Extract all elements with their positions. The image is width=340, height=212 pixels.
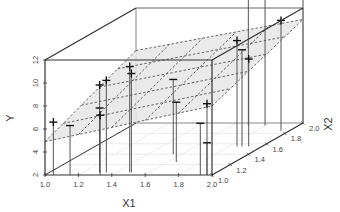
x1-tick-label: 1.0	[40, 180, 50, 189]
y-tick-label: 10	[31, 79, 40, 87]
x1-axis-label: X1	[122, 197, 135, 209]
x2-axis-label: X2	[322, 117, 334, 130]
y-tick-label: 12	[31, 56, 40, 64]
y-tick-label: 4	[31, 150, 40, 154]
floor-grid	[63, 123, 285, 175]
floor-grid-line	[145, 123, 236, 175]
x2-tick-label: 1.8	[291, 134, 301, 143]
x1-tick-label: 1.8	[173, 180, 183, 189]
x2-axis-line	[212, 123, 303, 175]
floor-grid-line	[112, 123, 203, 175]
x2-tick-label: 1.0	[218, 176, 228, 185]
x1-tick-label: 1.4	[107, 180, 117, 189]
x2-tick-label: 2.0	[309, 124, 319, 133]
x1-tick-label: 1.2	[73, 180, 83, 189]
x1-tick-label: 2.0	[207, 180, 217, 189]
x2-tick-label: 1.6	[273, 145, 283, 154]
data-point	[49, 118, 57, 126]
scatter3d-chart: 1.01.21.41.61.82.0246810121.01.21.41.61.…	[0, 0, 340, 212]
box-edge	[45, 8, 136, 60]
y-tick-label: 6	[31, 127, 40, 131]
x2-tick-label: 1.2	[236, 166, 246, 175]
x1-tick-label: 1.6	[140, 180, 150, 189]
floor-grid-line	[179, 123, 270, 175]
y-axis-label: Y	[4, 114, 16, 122]
y-tick-label: 2	[31, 173, 40, 177]
x2-tick-label: 1.4	[254, 155, 264, 164]
y-tick-label: 8	[31, 104, 40, 108]
